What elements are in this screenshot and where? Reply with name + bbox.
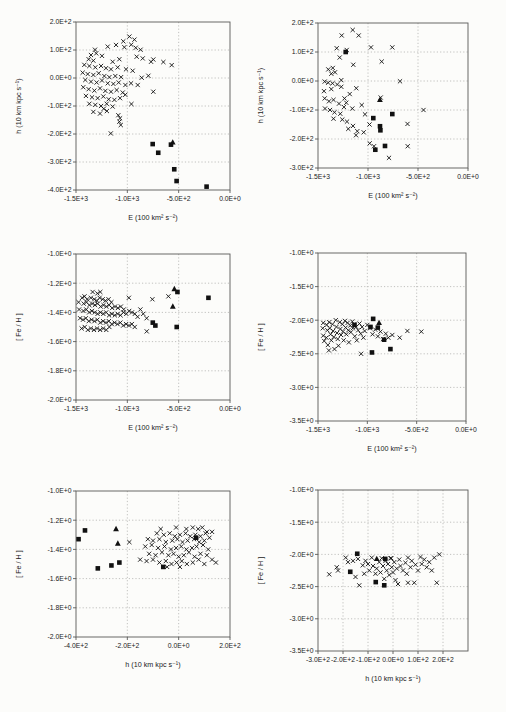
data-point-x [396, 582, 400, 586]
data-point-x [351, 28, 355, 32]
y-tick-label: 0.0E+0 [292, 77, 314, 84]
data-point-x [331, 117, 335, 121]
series-outliers-triangles-filled-triangle [170, 139, 176, 144]
y-tick-label: -2.0E+2 [290, 135, 314, 142]
data-point-x [92, 89, 96, 93]
y-tick-label: -1.5E+0 [290, 519, 314, 526]
data-point-x [335, 331, 339, 335]
data-point-x [368, 141, 372, 145]
data-point-x [106, 81, 110, 85]
data-point-x [100, 78, 104, 82]
data-point-x [146, 74, 150, 78]
series-cluster-stars-x [127, 525, 218, 569]
y-tick-label: -3.5E+0 [290, 417, 314, 424]
data-point-x [103, 89, 107, 93]
y-tick-label: -4.0E+2 [48, 186, 72, 193]
y-axis-title: [ Fe / H ] [14, 550, 23, 578]
data-point-x [367, 122, 371, 126]
data-point-x [331, 66, 335, 70]
data-point-x [81, 85, 85, 89]
data-point-x [115, 88, 119, 92]
data-point-x [159, 527, 163, 531]
data-point-x [390, 333, 394, 337]
x-tick-label: 1.0E+2 [407, 656, 429, 663]
data-point-triangle [374, 556, 380, 561]
x-axis-title: h (10 km kpc s⁻¹) [125, 660, 180, 669]
data-point-x [90, 95, 94, 99]
data-point-x [360, 103, 364, 107]
y-tick-label: -2.0E+0 [290, 551, 314, 558]
y-tick-label: -3.0E+2 [290, 164, 314, 171]
data-point-x [370, 556, 374, 560]
data-point-x [408, 565, 412, 569]
x-tick-label: -3.0E+2 [306, 656, 330, 663]
data-point-x [106, 45, 110, 49]
data-point-square [194, 535, 199, 540]
data-point-x [385, 568, 389, 572]
data-point-square [156, 150, 161, 155]
data-point-x [191, 560, 195, 564]
x-tick-label: -1.5E+3 [64, 195, 88, 202]
data-point-square [109, 563, 114, 568]
data-point-x [363, 329, 367, 333]
data-point-x [87, 102, 91, 106]
y-tick-label: -2.0E+0 [48, 396, 72, 403]
data-point-x [392, 560, 396, 564]
data-point-x [76, 300, 80, 304]
data-point-x [418, 555, 422, 559]
data-point-x [346, 560, 350, 564]
data-point-square [378, 128, 383, 133]
data-point-x [175, 537, 179, 541]
data-point-x [101, 94, 105, 98]
data-point-x [182, 553, 186, 557]
data-point-x [143, 544, 147, 548]
data-point-x [370, 332, 374, 336]
data-point-x [369, 45, 373, 49]
x-axis-title: E (100 km² s⁻²) [128, 213, 177, 222]
data-point-x [129, 43, 133, 47]
data-point-x [164, 540, 168, 544]
data-point-x [345, 120, 349, 124]
panel-middle-right: -1.5E+3-1.0E+3-5.0E+20.0E+0-1.0E+0-1.5E+… [253, 240, 506, 478]
data-point-x [342, 338, 346, 342]
data-point-x [91, 73, 95, 77]
grid-layer [318, 23, 468, 168]
data-point-x [188, 534, 192, 538]
scatter-chart-top-left-E-vs-h: -1.5E+3-1.0E+3-5.0E+20.0E+02.0E+21.0E+20… [0, 0, 253, 240]
data-point-square [382, 337, 387, 342]
y-axis-title: [ Fe / H ] [14, 313, 23, 341]
data-point-x [141, 56, 145, 60]
data-point-x [112, 98, 116, 102]
plot-frame [76, 491, 230, 637]
data-point-square [174, 179, 179, 184]
data-point-x [162, 533, 166, 537]
data-point-x [381, 564, 385, 568]
data-point-x [157, 537, 161, 541]
data-point-x [331, 98, 335, 102]
data-point-x [375, 566, 379, 570]
data-point-triangle [115, 540, 121, 545]
data-point-x [425, 565, 429, 569]
data-point-x [332, 110, 336, 114]
data-point-x [192, 555, 196, 559]
data-point-x [332, 335, 336, 339]
data-point-x [129, 81, 133, 85]
data-point-x [204, 531, 208, 535]
data-point-x [141, 312, 145, 316]
grid-layer [318, 490, 468, 651]
data-point-square [150, 142, 155, 147]
data-point-x [202, 562, 206, 566]
data-point-x [123, 93, 127, 97]
data-point-x [156, 546, 160, 550]
data-point-x [97, 71, 101, 75]
data-point-x [201, 543, 205, 547]
data-point-x [355, 129, 359, 133]
data-point-square [172, 167, 177, 172]
data-point-x [200, 525, 204, 529]
data-point-square [370, 350, 375, 355]
x-tick-label: -2.0E+2 [331, 656, 355, 663]
data-point-x [390, 45, 394, 49]
data-point-x [198, 534, 202, 538]
data-point-x [363, 559, 367, 563]
data-point-x [105, 102, 109, 106]
